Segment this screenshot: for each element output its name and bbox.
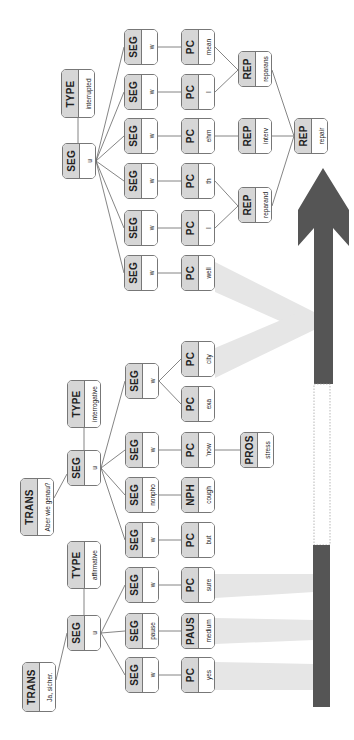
node-tag: SEG [129,620,140,642]
node-tag: SEG [128,262,139,284]
node-tag: SEG [128,217,139,239]
node-type-interrupted: TYPE interrupted [61,69,95,118]
node-value: stress [263,441,270,458]
node-tag: TYPE [71,391,82,418]
arrow-shaft-bottom [313,545,330,707]
node-tag: SEG [129,574,140,596]
node-pc-mean: PC mean [181,29,215,65]
node-value: medium [204,619,211,642]
node-tag: SEG [129,664,140,686]
node-value: w [148,538,155,543]
node-tag: SEG [129,439,140,461]
arrow-head-icon [298,168,349,384]
node-tag: TRANS [24,489,35,524]
wedge-medium [215,618,314,644]
node-value: yes [204,670,211,680]
node-pc-yes: PC yes [181,657,215,693]
node-value: Ja, sicher. [45,672,52,701]
node-pc-sure: PC sure [181,567,215,603]
node-value: I [204,91,211,93]
node-tag: PC [185,40,196,54]
node-seg-w: SEG w [125,363,159,399]
node-tag: PC [185,266,196,280]
node-rep-reparand: REP reparand [238,187,272,223]
node-tag: PC [185,578,196,592]
node-seg-w: SEG w [125,432,159,468]
node-value: w [147,45,154,50]
node-value: ehm [204,130,211,143]
node-value: th [204,178,211,183]
node-seg-w: SEG w [124,118,158,154]
diagram-canvas [0,0,354,740]
node-value: cough [204,486,211,504]
node-pc-ehm: PC ehm [181,118,215,154]
node-tag: PC [185,668,196,682]
node-tag: SEG [128,125,139,147]
node-tag: SEG [129,529,140,551]
node-value: w [147,226,154,231]
node-seg-w: SEG w [124,74,158,110]
node-pc-but: PC but [181,522,215,558]
node-seg-w: SEG w [125,567,159,603]
alignment-wedges [215,262,314,690]
node-pc-i: PC I [181,74,215,110]
node-value: w [147,271,154,276]
arrow-gap-dashed [314,384,330,545]
node-seg-w: SEG w [124,210,158,246]
node-type-affirmative: TYPE affirmative [67,541,101,589]
node-rep-repair: REP repair [294,118,328,154]
node-tag: SEG [128,36,139,58]
node-value: interrupted [84,78,91,109]
node-tag: PC [185,397,196,411]
node-seg-w: SEG w [124,255,158,291]
node-rep-reparans: REP reparans [238,51,272,87]
node-seg-w: SEG w [125,522,159,558]
node-value: reparans [261,56,268,82]
node-tag: PC [185,221,196,235]
node-tag: REP [298,125,309,146]
node-tag: PC [185,352,196,366]
node-value: u [85,159,92,163]
node-tag: PC [185,174,196,188]
node-pc-city: PC city [181,341,215,377]
node-tag: PC [185,533,196,547]
node-tag: PROS [244,435,255,464]
node-pros-stress: PROS stress [240,432,274,468]
node-value: affirmative [90,550,97,580]
node-value: Aber wie genau? [43,483,50,532]
node-rep-interv: REP interv [238,118,272,154]
node-value: u [90,631,97,635]
node-tag: SEG [71,457,82,479]
node-value: city [204,354,211,364]
node-value: mean [204,39,211,55]
node-tag: TYPE [65,80,76,107]
node-value: w [147,90,154,95]
node-value: w [147,179,154,184]
node-value: well [204,267,211,278]
node-tag: TYPE [71,552,82,579]
node-value: but [204,535,211,544]
node-seg-pause: SEG pause [125,613,159,649]
node-tag: SEG [128,81,139,103]
node-value: w [148,379,155,384]
node-value: w [148,583,155,588]
node-seg-nonpho: SEG nonpho [125,477,159,513]
node-value: w [147,134,154,139]
node-value: nonpho [148,484,155,506]
node-tag: PC [185,85,196,99]
node-tag: REP [242,58,253,79]
node-value: reparand [261,192,268,218]
node-trans-ja-sicher: TRANS Ja, sicher. [22,662,56,712]
node-value: interrogative [90,386,97,422]
node-tag: TRANS [26,669,37,704]
node-pc-i: PC I [181,210,215,246]
node-tag: PC [185,443,196,457]
node-tag: SEG [129,484,140,506]
node-value: w [148,448,155,453]
node-tag: NPH [185,484,196,506]
wedge-city [215,312,314,378]
node-nph-cough: NPH cough [181,477,215,513]
node-value: pause [148,622,155,640]
node-tag: PAUS [185,617,196,645]
node-value: I [204,227,211,229]
